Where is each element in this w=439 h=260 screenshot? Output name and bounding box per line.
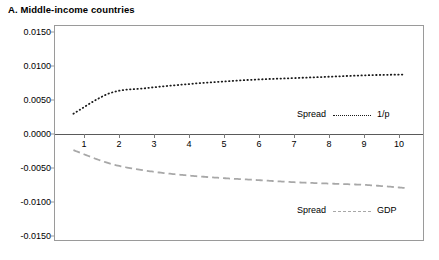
series-line-spread-gdp (73, 150, 404, 188)
plot-area: 0.0150 0.0100 0.0050 0.0000 -0.0050 -0.0… (54, 25, 424, 241)
ytick-label-1: 0.0100 (23, 62, 51, 71)
series-line-spread-1p (73, 75, 404, 114)
annotation-gdp: GDP (377, 206, 397, 215)
annotation-spread-bottom: Spread (297, 206, 326, 215)
ytick-label-0: 0.0150 (23, 28, 51, 37)
series-layer (55, 26, 423, 240)
annotation-dashed-connector (333, 211, 371, 212)
annotation-spread-top: Spread (297, 110, 326, 119)
ytick-label-4: -0.0050 (20, 164, 51, 173)
ytick-label-3: 0.0000 (23, 130, 51, 139)
annotation-1p: 1/p (377, 110, 390, 119)
ytick-label-2: 0.0050 (23, 96, 51, 105)
annotation-dotted-connector (333, 115, 371, 116)
ytick-label-6: -0.0150 (20, 232, 51, 241)
ytick-label-5: -0.0100 (20, 198, 51, 207)
page-title: A. Middle-income countries (8, 4, 135, 15)
chart-page: A. Middle-income countries 0.0150 0.0100… (0, 0, 439, 260)
